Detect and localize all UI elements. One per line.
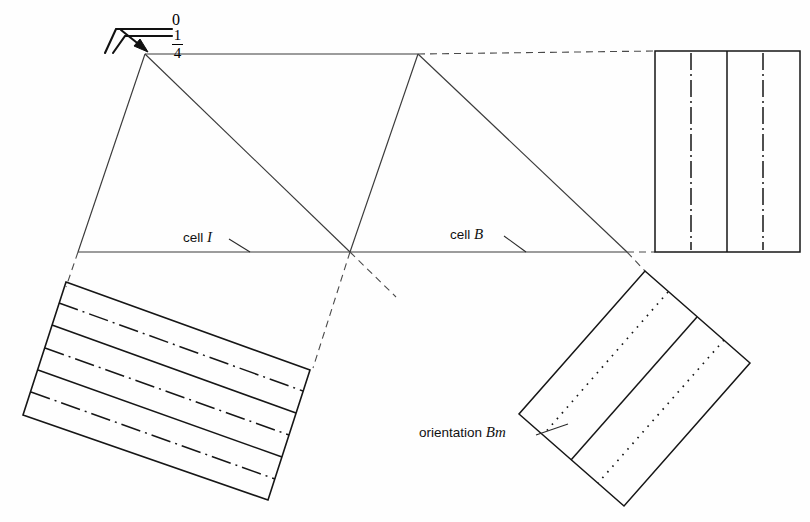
label-cell-b-symbol: B	[474, 226, 483, 242]
label-cell-b-prefix: cell	[450, 227, 474, 242]
panel-bl-solid-2	[38, 370, 282, 457]
edge-center-topmid	[350, 54, 418, 252]
panel-bl-centerline-1	[59, 303, 303, 391]
projection-center-to-bottom-left	[313, 252, 350, 368]
panel-vertical-dashdot	[655, 51, 800, 252]
diagonal-i	[145, 54, 350, 252]
panel-tilted-dashdot	[23, 282, 310, 500]
label-orientation-symbol: Bm	[486, 424, 506, 440]
label-orientation-bm: orientation Bm	[419, 424, 506, 441]
label-cell-i: cell I	[183, 229, 212, 246]
leader-cell-i	[229, 239, 250, 252]
figure-canvas: cell I cell B orientation Bm 0 1 4	[0, 0, 810, 522]
label-cell-i-prefix: cell	[183, 230, 207, 245]
label-cell-b: cell B	[450, 226, 483, 243]
symbol-fraction: 1 4	[172, 28, 183, 61]
projection-center-to-bottom-right	[350, 252, 396, 297]
label-cell-i-symbol: I	[207, 229, 212, 245]
leader-lines	[229, 236, 568, 435]
symbol-fraction-numerator: 1	[172, 28, 183, 43]
diagonal-b	[418, 54, 627, 252]
leader-cell-b	[504, 236, 526, 252]
panel-bl-solid-1	[52, 325, 296, 413]
projection-right-to-bottom-right	[627, 252, 645, 271]
panel-bl-centerline-2	[45, 348, 289, 435]
diagram-svg	[0, 0, 810, 522]
symbol-fraction-denominator: 4	[172, 46, 183, 61]
panel-bl-centerline-3	[31, 392, 275, 479]
label-orientation-prefix: orientation	[419, 425, 486, 440]
projection-to-top-right-panel	[418, 51, 655, 54]
panel-br-solid-divider	[571, 317, 697, 460]
projection-to-bottom-left-panel	[66, 252, 78, 287]
edge-left	[78, 54, 145, 252]
leader-orientation-bm	[536, 424, 568, 435]
panel-br-dotted-2	[598, 340, 724, 483]
panel-br-dotted-1	[543, 292, 668, 435]
panel-diagonal-dotted	[519, 271, 750, 506]
projection-lines	[66, 51, 655, 368]
main-cell-framework	[78, 54, 627, 252]
